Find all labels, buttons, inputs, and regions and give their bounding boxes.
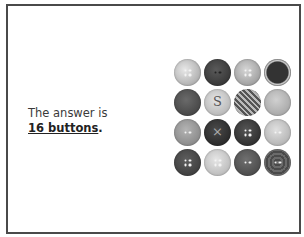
button-5-image <box>174 89 201 116</box>
button-holes-icon <box>184 159 191 166</box>
button-3-image <box>234 59 261 86</box>
button-holes-icon <box>214 71 221 74</box>
button-14-image <box>204 149 231 176</box>
button-1-image <box>174 59 201 86</box>
button-7-image <box>234 89 261 116</box>
answer-line-2: 16 buttons. <box>28 121 107 136</box>
button-10-image: × <box>204 119 231 146</box>
button-11-image <box>234 119 261 146</box>
button-12-image <box>264 119 291 146</box>
answer-line-1: The answer is <box>28 106 107 121</box>
answer-text: The answer is 16 buttons. <box>28 106 107 136</box>
button-15-image <box>234 149 261 176</box>
button-4-image <box>264 59 291 86</box>
button-16-image <box>264 149 291 176</box>
button-holes-icon <box>244 69 251 76</box>
button-holes-icon <box>274 131 281 134</box>
button-holes-icon <box>274 161 281 164</box>
button-emblem-icon: S <box>204 94 231 109</box>
button-13-image <box>174 149 201 176</box>
button-8-image <box>264 89 291 116</box>
button-2-image <box>204 59 231 86</box>
button-holes-icon <box>244 129 251 136</box>
button-holes-icon <box>184 69 191 76</box>
button-holes-icon <box>184 131 191 134</box>
button-holes-icon <box>214 159 221 166</box>
buttons-image-grid: S× <box>174 59 294 179</box>
answer-emphasis: 16 buttons <box>28 121 98 135</box>
button-6-image: S <box>204 89 231 116</box>
button-emblem-icon: × <box>204 124 231 139</box>
button-holes-icon <box>244 161 251 164</box>
slide-frame: The answer is 16 buttons. S× <box>6 4 301 234</box>
answer-period: . <box>98 121 102 135</box>
button-9-image <box>174 119 201 146</box>
